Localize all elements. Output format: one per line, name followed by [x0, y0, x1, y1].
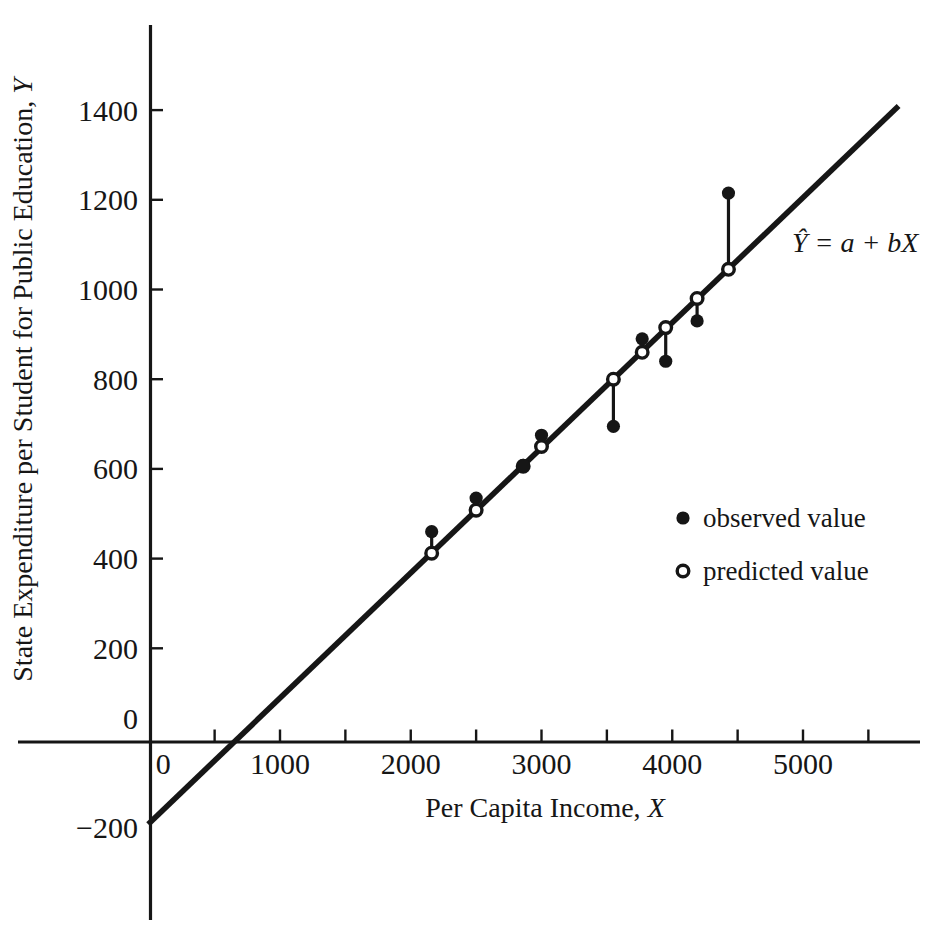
x-tick-label: 5000: [773, 747, 833, 780]
y-tick-label: 0: [123, 702, 138, 735]
x-tick-label: 4000: [642, 747, 702, 780]
scatter-plot: 0100020003000400050001400120010008006004…: [0, 0, 945, 939]
x-axis-title-text: Per Capita Income,: [425, 792, 647, 823]
predicted-point: [636, 346, 648, 358]
predicted-point: [536, 441, 548, 453]
legend-observed-label: observed value: [703, 503, 866, 533]
y-axis-title: State Expenditure per Student for Public…: [7, 75, 38, 682]
observed-point: [607, 420, 620, 433]
y-tick-label: −200: [76, 811, 138, 844]
chart-marks: 0100020003000400050001400120010008006004…: [18, 25, 920, 920]
predicted-point: [608, 373, 620, 385]
x-tick-label: 0: [156, 747, 171, 780]
observed-point: [425, 525, 438, 538]
y-axis-title-variable: Y: [7, 75, 38, 94]
legend-predicted-marker-icon: [677, 565, 689, 577]
x-axis-title-variable: X: [647, 792, 666, 823]
y-tick-label: 800: [93, 363, 138, 396]
predicted-point: [691, 293, 703, 305]
observed-point: [636, 332, 649, 345]
y-tick-label: 1200: [78, 183, 138, 216]
x-tick-label: 3000: [512, 747, 572, 780]
y-tick-label: 1000: [78, 273, 138, 306]
observed-point: [517, 459, 530, 472]
y-tick-label: 1400: [78, 94, 138, 127]
observed-point: [690, 314, 703, 327]
x-tick-label: 1000: [250, 747, 310, 780]
x-tick-label: 2000: [381, 747, 441, 780]
observed-point: [659, 355, 672, 368]
y-axis-title-text: State Expenditure per Student for Public…: [7, 94, 38, 682]
observed-point: [535, 429, 548, 442]
figure-page: 0100020003000400050001400120010008006004…: [0, 0, 945, 939]
predicted-point: [426, 547, 438, 559]
predicted-point: [470, 504, 482, 516]
legend: observed value predicted value: [676, 503, 868, 586]
legend-observed-marker-icon: [676, 511, 689, 524]
observed-point: [722, 186, 735, 199]
observed-point: [470, 491, 483, 504]
predicted-point: [660, 322, 672, 334]
predicted-point: [723, 264, 735, 276]
legend-predicted-label: predicted value: [703, 556, 869, 586]
regression-equation-label: Ŷ = a + bX: [792, 227, 919, 258]
y-tick-label: 400: [93, 542, 138, 575]
x-axis-title: Per Capita Income, X: [425, 792, 665, 823]
y-tick-label: 200: [93, 632, 138, 665]
y-tick-label: 600: [93, 452, 138, 485]
